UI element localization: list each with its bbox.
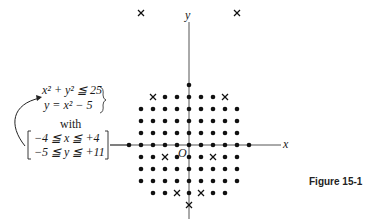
lattice-dot: [151, 119, 156, 124]
lattice-dot: [187, 131, 192, 136]
lattice-dot: [151, 167, 156, 172]
lattice-dot: [223, 179, 228, 184]
lattice-dot: [235, 131, 240, 136]
lattice-dot: [139, 143, 144, 148]
lattice-dot: [127, 143, 132, 148]
lattice-dot: [223, 119, 228, 124]
lattice-dot: [199, 95, 204, 100]
left-bracket-icon: [28, 131, 31, 159]
lattice-dot: [163, 95, 168, 100]
lattice-dot: [199, 107, 204, 112]
lattice-dot: [187, 167, 192, 172]
lattice-dot: [235, 143, 240, 148]
lattice-dot: [163, 167, 168, 172]
lattice-dot: [139, 119, 144, 124]
lattice-dot: [199, 143, 204, 148]
lattice-dot: [199, 155, 204, 160]
lattice-dot: [235, 179, 240, 184]
y-axis-label: y: [185, 8, 190, 23]
figure-15-1: y x O x² + y² ≦ 25 y = x² − 5 with −4 ≦ …: [0, 0, 382, 222]
lattice-dot: [199, 167, 204, 172]
lattice-dot: [187, 107, 192, 112]
lattice-dot: [235, 119, 240, 124]
lattice-dot: [139, 155, 144, 160]
lattice-dot: [235, 167, 240, 172]
lattice-dot: [163, 119, 168, 124]
figure-caption: Figure 15-1: [309, 176, 362, 187]
cross-marker-icon: [162, 154, 168, 160]
lattice-dot: [139, 107, 144, 112]
lattice-dot: [187, 179, 192, 184]
lattice-dot: [223, 191, 228, 196]
lattice-dot: [187, 119, 192, 124]
lattice-dot: [211, 191, 216, 196]
lattice-dot: [199, 119, 204, 124]
lattice-dot: [187, 95, 192, 100]
cross-marker-icon: [138, 10, 144, 16]
lattice-dot: [211, 143, 216, 148]
lattice-dot: [187, 155, 192, 160]
lattice-dot: [151, 131, 156, 136]
lattice-dot: [175, 107, 180, 112]
lattice-dot: [151, 155, 156, 160]
right-bracket-icon: [105, 131, 108, 159]
lattice-dot: [139, 131, 144, 136]
lattice-dot: [175, 95, 180, 100]
x-axis-label: x: [283, 137, 288, 152]
lattice-dot: [151, 179, 156, 184]
cross-marker-icon: [174, 190, 180, 196]
lattice-dot: [187, 191, 192, 196]
lattice-dot: [175, 119, 180, 124]
cross-marker-icon: [222, 94, 228, 100]
lattice-dot: [223, 155, 228, 160]
lattice-dot: [139, 167, 144, 172]
lattice-dot: [211, 107, 216, 112]
lattice-dot: [151, 143, 156, 148]
lattice-dot: [163, 107, 168, 112]
lattice-dot: [163, 131, 168, 136]
lattice-dot: [211, 95, 216, 100]
lattice-dot: [211, 131, 216, 136]
lattice-dot: [223, 143, 228, 148]
origin-label: O: [178, 146, 187, 161]
lattice-dot: [235, 107, 240, 112]
lattice-dot: [163, 179, 168, 184]
lattice-dot: [211, 167, 216, 172]
lattice-dot: [187, 143, 192, 148]
cross-marker-icon: [234, 10, 240, 16]
lattice-dot: [163, 143, 168, 148]
lattice-dot: [223, 107, 228, 112]
cross-marker-icon: [150, 94, 156, 100]
lattice-dot: [151, 107, 156, 112]
y-bounds: −5 ≦ y ≦ +11: [34, 145, 105, 159]
lattice-dot: [211, 179, 216, 184]
lattice-dot: [175, 131, 180, 136]
lattice-dot: [163, 191, 168, 196]
lattice-dot: [223, 167, 228, 172]
x-bounds: −4 ≦ x ≦ +4: [34, 131, 100, 145]
lattice-dot: [235, 155, 240, 160]
lattice-dot: [199, 131, 204, 136]
lattice-dot: [199, 179, 204, 184]
with-label: with: [60, 117, 81, 131]
cross-marker-icon: [198, 190, 204, 196]
lattice-dot: [151, 191, 156, 196]
inequality-circle: x² + y² ≦ 25: [42, 83, 102, 97]
lattice-dot: [211, 119, 216, 124]
lattice-dot: [175, 179, 180, 184]
lattice-dot: [247, 143, 252, 148]
equation-parabola: y = x² − 5: [44, 98, 92, 112]
cross-marker-icon: [210, 154, 216, 160]
lattice-dot: [223, 131, 228, 136]
lattice-dot: [187, 83, 192, 88]
lattice-dot: [175, 167, 180, 172]
lattice-dot: [139, 179, 144, 184]
